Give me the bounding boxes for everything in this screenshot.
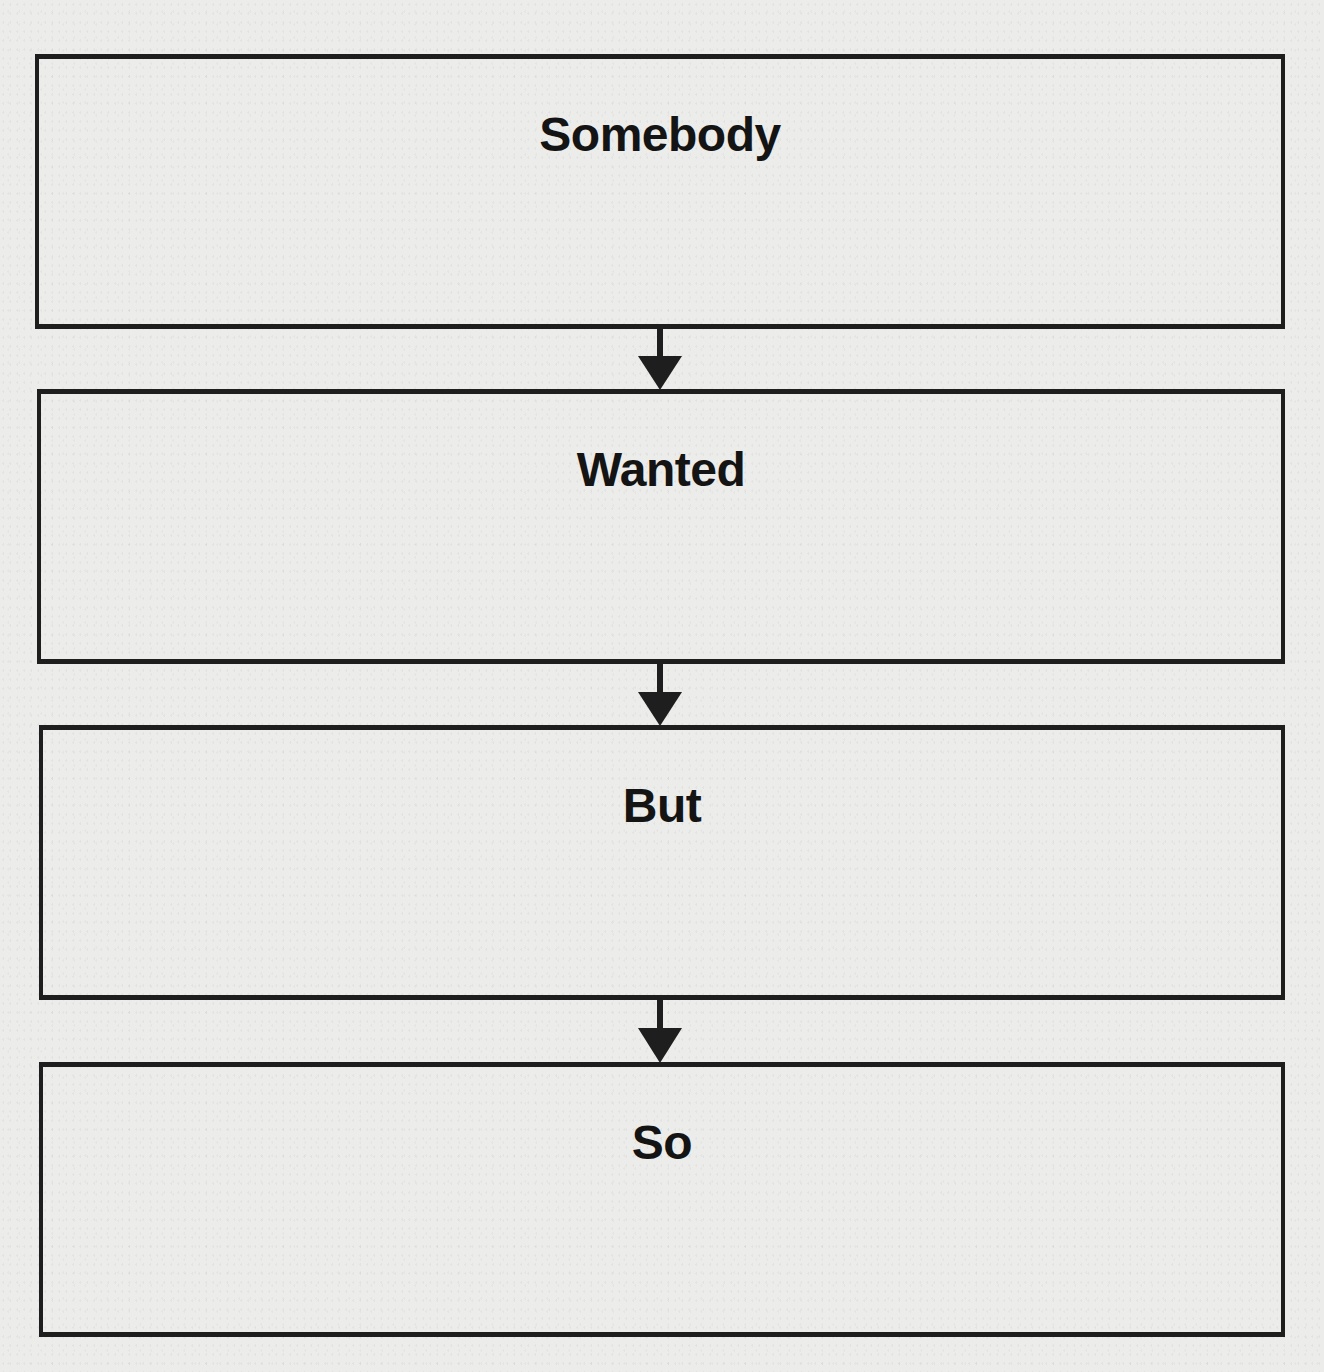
down-arrow-icon	[635, 999, 685, 1063]
down-arrow-icon	[635, 663, 685, 726]
flow-box-somebody: Somebody	[35, 54, 1285, 329]
flow-box-so: So	[39, 1062, 1285, 1337]
flow-box-but: But	[39, 725, 1285, 1000]
flow-box-label: So	[43, 1115, 1281, 1170]
flow-box-label: Wanted	[41, 442, 1281, 497]
flow-box-label: But	[43, 778, 1281, 833]
flow-box-label: Somebody	[39, 107, 1281, 162]
flow-box-wanted: Wanted	[37, 389, 1285, 664]
down-arrow-icon	[635, 328, 685, 390]
